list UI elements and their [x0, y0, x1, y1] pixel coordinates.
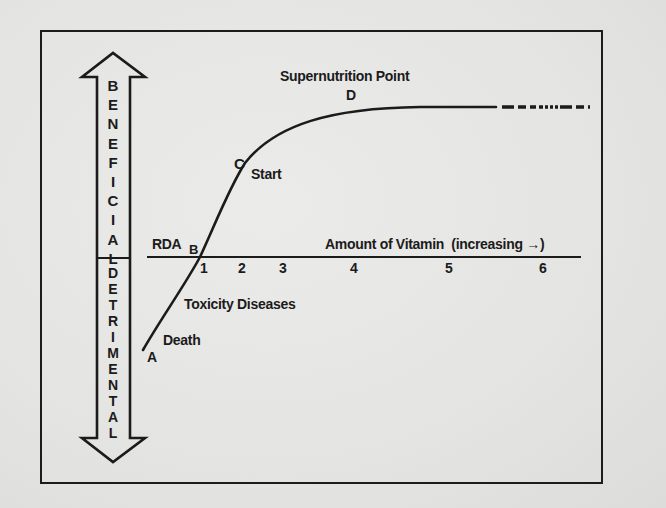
detrimental-letter: D [96, 265, 130, 281]
beneficial-letter: I [96, 210, 130, 229]
detrimental-letter: A [96, 409, 130, 425]
detrimental-letter: T [96, 393, 130, 409]
right-arrow-icon: →) [526, 236, 544, 252]
supernutrition-point-label: Supernutrition Point [280, 69, 409, 83]
beneficial-letter: F [96, 153, 130, 172]
x-tick-4: 4 [350, 261, 358, 275]
x-tick-5: 5 [445, 261, 453, 275]
beneficial-letter: B [96, 76, 130, 95]
x-axis-direction-note: (increasing [451, 236, 522, 252]
detrimental-letter: M [96, 345, 130, 361]
detrimental-label: D E T R I M E N T A L [96, 265, 130, 441]
detrimental-letter: I [96, 329, 130, 345]
beneficial-letter: C [96, 191, 130, 210]
detrimental-letter: E [96, 281, 130, 297]
point-b-label: B [189, 243, 198, 256]
point-d-label: D [346, 88, 356, 102]
detrimental-letter: L [96, 425, 130, 441]
x-tick-6: 6 [539, 261, 547, 275]
response-curve [143, 107, 496, 350]
x-axis-title: Amount of Vitamin [325, 236, 444, 252]
beneficial-letter: E [96, 95, 130, 114]
detrimental-letter: R [96, 313, 130, 329]
rda-label: RDA [152, 237, 181, 251]
beneficial-letter: I [96, 172, 130, 191]
detrimental-letter: T [96, 297, 130, 313]
beneficial-label: B E N E F I C I A L [96, 76, 130, 268]
detrimental-letter: E [96, 361, 130, 377]
detrimental-letter: N [96, 377, 130, 393]
x-tick-3: 3 [279, 261, 287, 275]
x-tick-1: 1 [200, 261, 208, 275]
x-tick-2: 2 [238, 261, 246, 275]
point-a-label: A [147, 350, 157, 364]
x-axis-label: Amount of Vitamin (increasing →) [325, 237, 544, 251]
beneficial-letter: E [96, 134, 130, 153]
diagram-page: B E N E F I C I A L D E T R I M E N T A … [0, 0, 666, 508]
start-label: Start [251, 167, 281, 181]
beneficial-letter: N [96, 114, 130, 133]
death-label: Death [163, 333, 200, 347]
point-c-label: C [234, 156, 245, 171]
toxicity-diseases-label: Toxicity Diseases [184, 297, 295, 311]
beneficial-letter: A [96, 230, 130, 249]
